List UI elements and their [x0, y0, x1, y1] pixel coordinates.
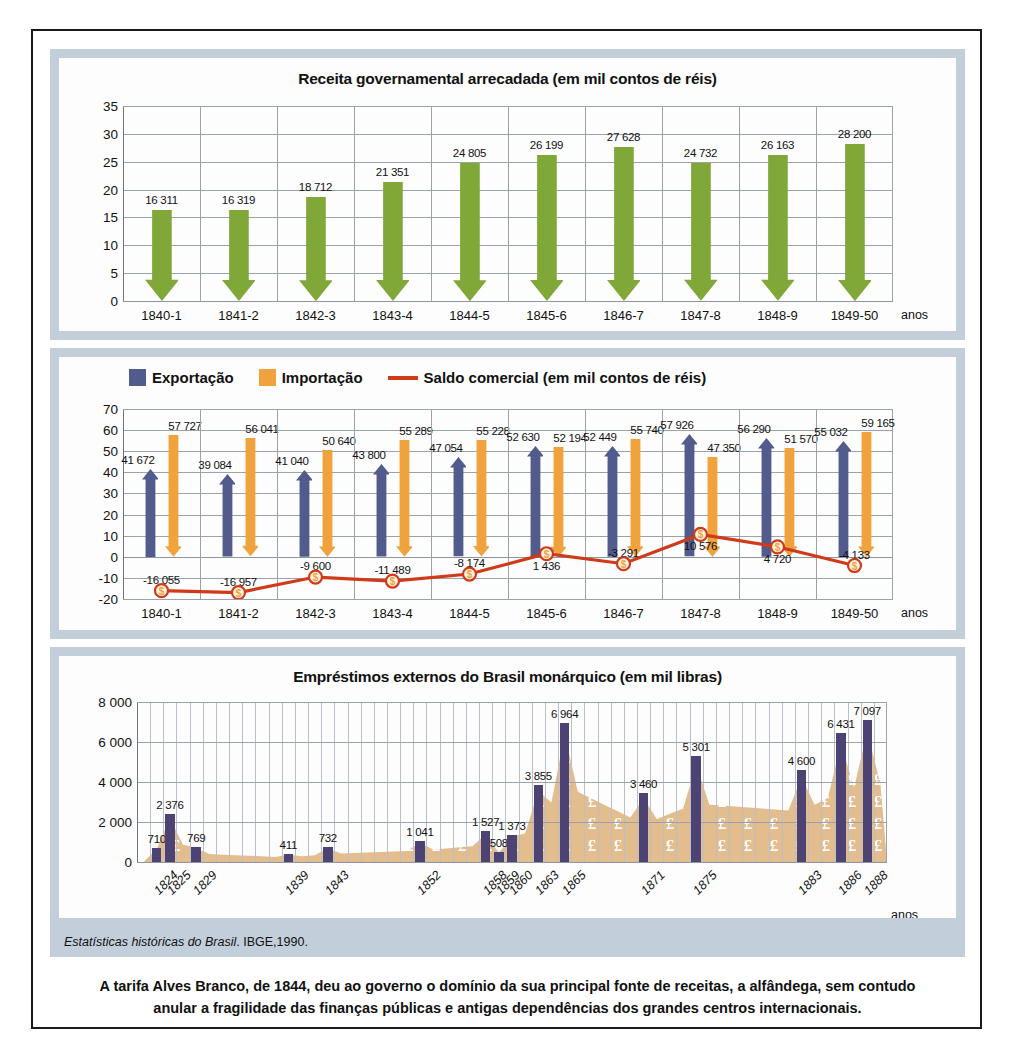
data-label-emprestimo-1860: 1 373 [498, 820, 525, 832]
data-label-exportacao-1842-3: 41 040 [275, 455, 308, 467]
data-label-saldo-1849-50: -4 133 [839, 549, 870, 561]
ytick--20: -20 [98, 592, 118, 607]
xtick-emprestimo-1875: 1875 [690, 868, 720, 898]
ytick-10: 10 [103, 528, 118, 543]
gridline-y--20 [123, 599, 893, 600]
vline2-2 [277, 409, 278, 599]
ytick-35: 35 [103, 99, 118, 114]
bar-exportacao-1844-5 [450, 457, 467, 556]
bar-receita-1844-5 [453, 163, 487, 301]
svg-text:$: $ [852, 561, 858, 572]
data-label-emprestimo-1871: 3 460 [630, 778, 657, 790]
bar-emprestimo-1888 [863, 720, 872, 862]
bar-emprestimo-1886 [836, 733, 845, 862]
figure-caption: A tarifa Alves Branco, de 1844, deu ao g… [63, 975, 952, 1020]
bar-importacao-1845-6 [550, 447, 567, 557]
data-label-receita-1841-2: 16 319 [222, 194, 255, 206]
data-label-importacao-1845-6: 52 194 [553, 432, 586, 444]
data-label-receita-1846-7: 27 628 [607, 131, 640, 143]
xtick-receita-1845-6: 1845-6 [526, 308, 566, 323]
xtick-emprestimo-1863: 1863 [533, 868, 563, 898]
data-label-emprestimo-1875: 5 301 [683, 741, 710, 753]
xtick-comercio-1846-7: 1846-7 [603, 606, 643, 621]
data-label-exportacao-1846-7: 52 449 [583, 431, 616, 443]
data-label-receita-1840-1: 16 311 [145, 194, 178, 206]
bar-receita-1846-7 [607, 147, 641, 301]
source-title: Estatísticas históricas do Brasil [64, 935, 236, 949]
ytick-40: 40 [103, 465, 118, 480]
data-label-receita-1844-5: 24 805 [453, 147, 486, 159]
xtick-comercio-1848-9: 1848-9 [757, 606, 797, 621]
xtick-emprestimo-1843: 1843 [322, 868, 352, 898]
data-label-emprestimo-1843: 732 [319, 832, 337, 844]
xtick-emprestimo-1852: 1852 [414, 868, 444, 898]
bar-importacao-1841-2 [242, 438, 259, 556]
data-label-emprestimo-1839: 411 [280, 839, 297, 851]
bar-importacao-1842-3 [319, 450, 336, 557]
data-label-exportacao-1844-5: 47 054 [429, 442, 462, 454]
ytick-4000: 4 000 [98, 775, 132, 790]
bar-emprestimo-1860 [507, 835, 516, 862]
ytick-15: 15 [103, 210, 118, 225]
chart-emprestimos-inner: Empréstimos externos do Brasil monárquic… [59, 656, 956, 918]
ytick-6000: 6 000 [98, 735, 132, 750]
xtick-receita-1840-1: 1840-1 [141, 308, 181, 323]
chart-panel-receita: Receita governamental arrecadada (em mil… [50, 49, 965, 340]
bar-emprestimo-1865 [560, 723, 569, 862]
legend-swatch-exportacao [129, 369, 146, 386]
vline-7 [662, 106, 663, 301]
chart-receita-plot: 0510152025303516 3111840-116 3191841-218… [123, 106, 893, 301]
ytick-10: 10 [103, 238, 118, 253]
legend-item-importacao: Importação [259, 369, 363, 386]
xtick-comercio-1840-1: 1840-1 [141, 606, 181, 621]
data-label-saldo-1840-1: -16 055 [143, 574, 180, 586]
vline-4 [431, 106, 432, 301]
bar-emprestimo-1859 [494, 852, 503, 862]
xtick-receita-1843-4: 1843-4 [372, 308, 412, 323]
bar-importacao-1840-1 [165, 435, 182, 557]
plot-left-axis [123, 409, 124, 599]
vline-3 [354, 106, 355, 301]
bar-importacao-1848-9 [781, 448, 798, 557]
data-label-exportacao-1845-6: 52 630 [506, 431, 539, 443]
data-label-emprestimo-1852: 1 041 [406, 826, 433, 838]
legend-label-importacao: Importação [282, 369, 363, 386]
vline-2 [277, 106, 278, 301]
legend-label-saldo: Saldo comercial (em mil contos de réis) [424, 369, 707, 386]
xtick-receita-1848-9: 1848-9 [757, 308, 797, 323]
ytick-0: 0 [124, 855, 132, 870]
legend-swatch-importacao [259, 369, 276, 386]
data-label-emprestimo-1858: 1 527 [472, 816, 499, 828]
bar-emprestimo-1824 [152, 848, 161, 862]
ytick-0: 0 [110, 294, 118, 309]
data-label-exportacao-1841-2: 39 084 [198, 459, 231, 471]
bar-receita-1843-4 [376, 182, 410, 301]
data-label-importacao-1840-1: 57 727 [168, 420, 201, 432]
bar-exportacao-1849-50 [835, 441, 852, 557]
xtick-comercio-1849-50: 1849-50 [831, 606, 879, 621]
gridline-y-0 [137, 862, 887, 863]
svg-text:$: $ [236, 588, 242, 599]
ytick--10: -10 [98, 570, 118, 585]
ytick-50: 50 [103, 444, 118, 459]
bar-receita-1841-2 [222, 210, 256, 301]
vline2-1 [200, 409, 201, 599]
saldo-marker-1841-2: $ [232, 586, 245, 599]
vline-1 [200, 106, 201, 301]
data-label-saldo-1846-7: -3 291 [608, 547, 639, 559]
ytick-0: 0 [110, 549, 118, 564]
chart-comercio-inner: Exportação Importação Saldo comercial (e… [59, 357, 956, 630]
data-label-saldo-1844-5: -8 174 [454, 557, 485, 569]
bar-receita-1849-50 [838, 144, 872, 301]
gridline-y-6000 [137, 742, 887, 743]
data-label-saldo-1845-6: 1 436 [533, 560, 560, 572]
saldo-marker-1846-7: $ [617, 557, 630, 570]
ytick-30: 30 [103, 126, 118, 141]
ytick-30: 30 [103, 486, 118, 501]
data-label-saldo-1842-3: -9 600 [300, 560, 331, 572]
data-label-emprestimo-1883: 4 600 [788, 755, 815, 767]
data-label-saldo-1841-2: -16 957 [220, 576, 257, 588]
caption-line-2: anular a fragilidade das finanças públic… [63, 997, 952, 1019]
saldo-marker-1840-1: $ [155, 584, 168, 597]
chart-emprestimos-title: Empréstimos externos do Brasil monárquic… [59, 668, 956, 686]
